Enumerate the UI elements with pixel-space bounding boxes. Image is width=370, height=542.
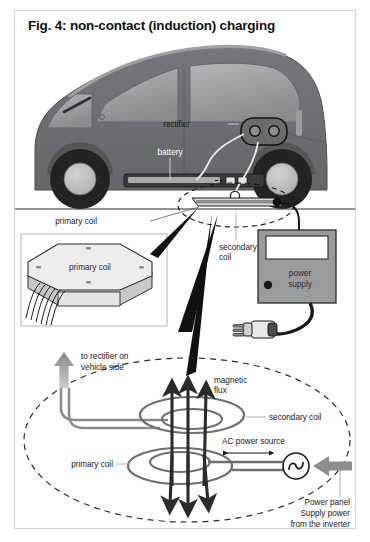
label-primary-coil-top: primary coil — [55, 217, 97, 226]
door-handle — [99, 114, 104, 119]
secondary-coil-loop — [140, 397, 244, 433]
label-secondary-coil-top-line1: secondary — [219, 243, 258, 252]
ac-power-source-symbol — [283, 453, 309, 479]
label-secondary-coil-bottom: secondary coil — [269, 413, 322, 422]
label-power-supply-line2: supply — [288, 280, 313, 289]
callout-wedge-upper — [150, 208, 198, 258]
ac-source-leads — [208, 462, 288, 470]
label-to-rectifier-line2: vehicle side — [81, 363, 124, 372]
label-ac-power-source: AC power source — [222, 437, 285, 446]
figure-container: Fig. 4: non-contact (induction) charging — [0, 0, 370, 542]
label-inset-primary-coil: primary coil — [69, 263, 111, 272]
label-power-supply-line1: power — [289, 269, 312, 278]
mains-cord — [272, 303, 312, 334]
primary-coil-loop — [128, 448, 232, 484]
primary-coil-inset: primary coil — [21, 234, 167, 326]
mains-plug — [233, 321, 277, 338]
battery-pack — [124, 174, 264, 187]
label-primary-coil-bottom: primary coil — [71, 460, 113, 469]
label-power-panel-line2: Supply power — [300, 509, 350, 518]
window-pillar-stripe — [296, 110, 302, 136]
wheel-rear — [50, 149, 110, 209]
power-panel-arrow — [313, 456, 352, 476]
label-power-panel-line1: Power panel — [304, 498, 350, 507]
magnetic-flux-arrows — [170, 385, 208, 508]
label-battery: battery — [157, 148, 183, 157]
secondary-coil-leads — [61, 388, 168, 428]
label-to-rectifier-line1: to rectifier on — [81, 352, 129, 361]
label-rectifier: rectifier — [163, 120, 190, 129]
diagram-canvas: rectifier battery primary coil secondary… — [0, 0, 370, 542]
power-supply-input-port — [264, 281, 272, 289]
secondary-coil-pad — [192, 198, 282, 207]
rectifier-unit — [241, 118, 287, 145]
label-magnetic-flux-line1: magnetic — [214, 376, 247, 385]
pad-lower-slab — [58, 292, 120, 306]
label-secondary-coil-top-line2: coil — [219, 253, 231, 262]
label-magnetic-flux-line2: flux — [214, 386, 227, 395]
label-power-panel-line3: from the inverter — [290, 520, 350, 529]
callout-wedge-bottom — [186, 214, 212, 376]
